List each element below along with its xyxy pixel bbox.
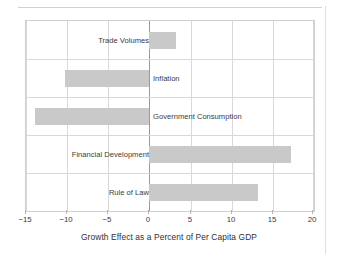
bar-label-rule-of-law: Rule of Law	[26, 184, 152, 201]
gridline-y-3	[26, 135, 314, 136]
xtick-mark-5	[190, 210, 191, 214]
xtick-label--15: −15	[10, 215, 40, 224]
xtick-mark-20	[312, 210, 313, 214]
bar-financial-development[interactable]	[149, 146, 291, 163]
gridline-y-4	[26, 173, 314, 174]
bar-label-inflation: Inflation	[150, 70, 317, 87]
gridline-y-1	[26, 59, 314, 60]
xtick-label-5: 5	[175, 215, 205, 224]
bar-government-consumption[interactable]	[35, 108, 149, 125]
xtick-mark--5	[107, 210, 108, 214]
bar-label-financial-development: Financial Development	[26, 146, 152, 163]
bar-label-government-consumption: Government Consumption	[150, 108, 317, 125]
xtick-mark-15	[272, 210, 273, 214]
xtick-mark--15	[25, 210, 26, 214]
xtick-label--5: −5	[92, 215, 122, 224]
xtick-label-20: 20	[297, 215, 327, 224]
figure-container: Trade Volumes Inflation Government Consu…	[0, 0, 338, 259]
xtick-label-15: 15	[257, 215, 287, 224]
xtick-mark-0	[148, 210, 149, 214]
xtick-label-0: 0	[133, 215, 163, 224]
bar-label-trade-volumes: Trade Volumes	[26, 32, 152, 49]
bar-rule-of-law[interactable]	[149, 184, 258, 201]
plot-area: Trade Volumes Inflation Government Consu…	[25, 20, 315, 212]
top-divider	[18, 7, 322, 8]
xtick-label-10: 10	[216, 215, 246, 224]
xtick-mark-10	[231, 210, 232, 214]
bar-inflation[interactable]	[65, 70, 149, 87]
x-axis-title: Growth Effect as a Percent of Per Capita…	[25, 232, 313, 242]
xtick-label--10: −10	[51, 215, 81, 224]
bar-trade-volumes[interactable]	[149, 32, 176, 49]
gridline-x--15	[26, 21, 27, 211]
gridline-y-2	[26, 97, 314, 98]
xtick-mark--10	[66, 210, 67, 214]
